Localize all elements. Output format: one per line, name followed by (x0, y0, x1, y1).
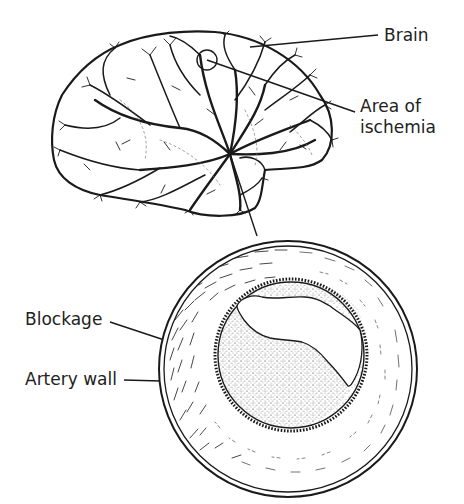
brain-to-artery-connector (230, 154, 257, 236)
ischemia-label-line2: ischemia (360, 117, 436, 138)
brain-label: Brain (384, 25, 429, 46)
artery-cross-section (159, 241, 417, 497)
brain-outline (52, 31, 332, 215)
brain-drawing (52, 31, 338, 216)
blockage-label: Blockage (25, 309, 102, 330)
diagram-illustration (0, 0, 464, 504)
brain-leader (250, 35, 378, 47)
diagram-canvas: Brain Area of ischemia Blockage Artery w… (0, 0, 464, 504)
ischemia-label-line1: Area of (360, 96, 421, 117)
artery-wall-label: Artery wall (25, 369, 117, 390)
ischemia-leader (207, 60, 355, 112)
